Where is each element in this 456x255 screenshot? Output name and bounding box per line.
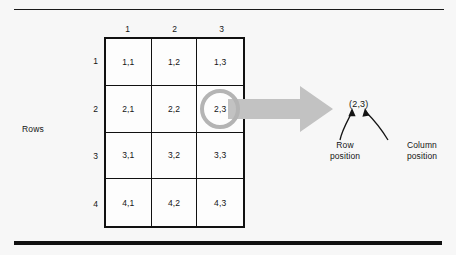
matrix-cell-4-2: 4,2: [152, 179, 198, 226]
row-position-leader-label: Row position: [320, 140, 370, 161]
row-position-line-1: Row: [320, 140, 370, 151]
matrix-cell-label: 2,1: [122, 104, 134, 114]
matrix-cell-label: 1,1: [122, 57, 134, 67]
matrix-cell-label: 3,1: [122, 150, 134, 160]
matrix-cell-1-3: 1,3: [197, 39, 243, 86]
column-header-3: 3: [198, 22, 245, 35]
leader-arrows-icon: [318, 108, 453, 142]
column-header-row: 1 2 3: [104, 22, 245, 35]
matrix-coordinate-diagram: Rows 1 2 3 1 2 3 4 1,1 1,2 1,3 2,1 2,2 2…: [0, 0, 456, 255]
matrix-cell-1-1: 1,1: [106, 39, 152, 86]
top-rule: [14, 9, 444, 10]
matrix-cell-label: 3,3: [214, 150, 226, 160]
row-header-2: 2: [84, 85, 98, 133]
column-position-line-1: Column: [394, 140, 450, 151]
row-header-4: 4: [84, 180, 98, 228]
matrix-cell-label: 4,2: [168, 198, 180, 208]
row-position-line-2: position: [320, 151, 370, 162]
column-position-leader-label: Column position: [394, 140, 450, 161]
rows-axis-label: Rows: [22, 124, 44, 134]
matrix-cell-2-1: 2,1: [106, 86, 152, 133]
matrix-cell-3-2: 3,2: [152, 133, 198, 180]
matrix-cell-label: 1,2: [168, 57, 180, 67]
row-header-3: 3: [84, 133, 98, 181]
matrix-cell-4-1: 4,1: [106, 179, 152, 226]
matrix-cell-label: 4,3: [214, 198, 226, 208]
matrix-cell-label: 2,2: [168, 104, 180, 114]
row-header-column: 1 2 3 4: [84, 37, 98, 228]
matrix-cell-3-1: 3,1: [106, 133, 152, 180]
column-header-2: 2: [151, 22, 198, 35]
bottom-rule: [14, 241, 442, 245]
row-header-1: 1: [84, 37, 98, 85]
matrix-cell-label: 4,1: [122, 198, 134, 208]
matrix-grid: 1,1 1,2 1,3 2,1 2,2 2,3 3,1 3,2 3,3 4,1 …: [104, 37, 245, 228]
matrix-cell-4-3: 4,3: [197, 179, 243, 226]
matrix-cell-2-2: 2,2: [152, 86, 198, 133]
highlight-ring-icon: [200, 89, 240, 129]
matrix-cell-3-3: 3,3: [197, 133, 243, 180]
matrix-cell-label: 1,3: [214, 57, 226, 67]
column-header-1: 1: [104, 22, 151, 35]
matrix-cell-label: 3,2: [168, 150, 180, 160]
column-position-line-2: position: [394, 151, 450, 162]
pointer-arrow-icon: [228, 84, 333, 134]
matrix-cell-1-2: 1,2: [152, 39, 198, 86]
